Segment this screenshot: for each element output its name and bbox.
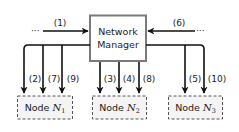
edge-label-8: (8)	[143, 74, 156, 84]
incoming-dots-left: ···	[31, 26, 40, 36]
incoming-dots-right: ···	[196, 26, 205, 36]
edge-label-1: (1)	[54, 18, 67, 28]
edge-label-10: (10)	[208, 74, 226, 84]
manager-label-line1: Network	[98, 26, 138, 37]
node-n2-subscript: 2	[136, 107, 140, 115]
node-n3-prefix: Node	[175, 102, 203, 113]
bus-to-node-1	[24, 45, 90, 93]
node-n3-subscript: 3	[212, 107, 216, 115]
node-n1: Node N1	[18, 96, 73, 119]
node-n2-prefix: Node	[99, 102, 127, 113]
edge-label-5: (5)	[189, 74, 202, 84]
edge-label-7: (7)	[48, 74, 61, 84]
edge-label-3: (3)	[104, 74, 117, 84]
edge-label-6: (6)	[173, 18, 186, 28]
edge-label-2: (2)	[29, 74, 42, 84]
incoming-edge-1: ··· (1)	[31, 18, 88, 36]
node-n2: Node N2	[93, 96, 147, 119]
edge-label-4: (4)	[123, 74, 136, 84]
network-manager-box: Network Manager	[90, 16, 146, 62]
node-n1-prefix: Node	[25, 102, 53, 113]
node-n1-subscript: 1	[61, 107, 65, 115]
incoming-edge-6: ··· (6)	[148, 18, 205, 36]
network-manager-diagram: Network Manager ··· (1) ··· (6) (2) (7) …	[0, 0, 239, 132]
manager-label-line2: Manager	[97, 39, 139, 50]
edge-label-9: (9)	[67, 74, 80, 84]
bus-to-node-3	[146, 45, 204, 93]
node-n3: Node N3	[169, 96, 223, 119]
